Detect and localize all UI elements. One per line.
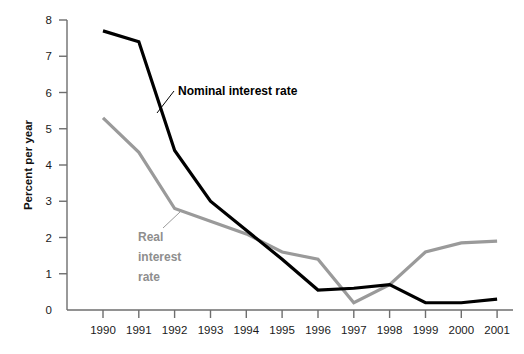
x-tick-label-1991: 1991 (126, 324, 152, 336)
leader-line-real (163, 212, 180, 228)
y-axis: 8 7 6 5 4 3 2 1 0 Percent per year (22, 14, 67, 316)
annotation-nominal-interest-rate: Nominal interest rate (178, 84, 298, 98)
x-tick-label-2001: 2001 (484, 324, 510, 336)
x-tick-label-1998: 1998 (377, 324, 403, 336)
x-axis: 1990 1991 1992 1993 1994 1995 1996 1997 … (67, 310, 513, 336)
x-tick-label-1996: 1996 (305, 324, 331, 336)
chart-container: 8 7 6 5 4 3 2 1 0 Percent per year (0, 0, 524, 354)
annotation-real-interest-rate-line3: rate (138, 270, 160, 284)
y-tick-label-5: 5 (46, 123, 52, 135)
x-tick-label-2000: 2000 (449, 324, 475, 336)
y-tick-label-0: 0 (46, 304, 52, 316)
x-tick-label-1997: 1997 (341, 324, 367, 336)
y-tick-label-4: 4 (46, 159, 53, 171)
y-tick-label-3: 3 (46, 195, 52, 207)
y-tick-label-8: 8 (46, 14, 52, 26)
y-axis-title: Percent per year (22, 119, 34, 210)
x-tick-label-1994: 1994 (234, 324, 260, 336)
x-tick-label-1995: 1995 (269, 324, 295, 336)
annotation-real-interest-rate-line1: Real (138, 230, 163, 244)
x-tick-label-1992: 1992 (162, 324, 188, 336)
y-tick-label-1: 1 (46, 268, 52, 280)
x-tick-label-1999: 1999 (413, 324, 439, 336)
y-tick-label-2: 2 (46, 232, 52, 244)
x-tick-label-1993: 1993 (198, 324, 224, 336)
line-chart: 8 7 6 5 4 3 2 1 0 Percent per year (0, 0, 524, 354)
x-tick-label-1990: 1990 (90, 324, 116, 336)
y-tick-label-7: 7 (46, 50, 52, 62)
annotation-real-interest-rate-line2: interest (138, 250, 181, 264)
y-tick-label-6: 6 (46, 87, 52, 99)
